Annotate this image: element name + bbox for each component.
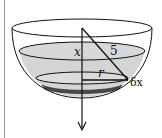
slice-thickness-label: δx bbox=[130, 76, 144, 89]
bowl-diagram: x 5 r δx bbox=[0, 0, 162, 138]
depth-label: x bbox=[74, 45, 81, 59]
radius-label: 5 bbox=[110, 44, 118, 58]
